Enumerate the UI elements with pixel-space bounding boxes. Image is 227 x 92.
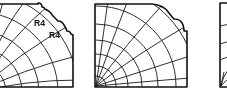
panel-1: R4 R4: [0, 0, 100, 92]
panel-3-trajectory-grid: [220, 24, 227, 86]
radius-label-1: R4: [34, 18, 45, 28]
diagram-canvas: R4 R4: [0, 0, 227, 92]
panel-2-trajectory-grid: [0, 0, 196, 92]
radius-label-2: R4: [49, 30, 60, 40]
panel-1-trajectory-grid: [0, 0, 100, 92]
panel-3: [220, 3, 227, 87]
panel-2: [0, 0, 196, 92]
